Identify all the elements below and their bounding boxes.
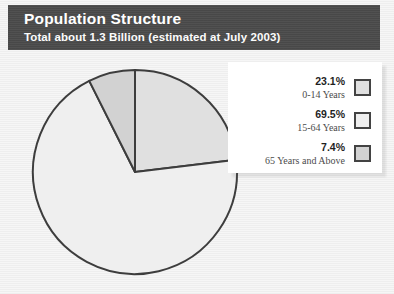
legend-item-percent: 7.4%	[265, 141, 345, 154]
pie-slice-group	[33, 70, 237, 274]
legend-item-label: 15-64 Years	[297, 121, 345, 134]
pie-chart-svg	[31, 68, 239, 276]
chart-header-bar: Population Structure Total about 1.3 Bil…	[8, 5, 380, 50]
legend-item-label: 0-14 Years	[302, 88, 345, 101]
legend-swatch-icon	[354, 112, 371, 129]
legend-item-label: 65 Years and Above	[265, 154, 345, 167]
legend-item-text: 69.5% 15-64 Years	[297, 108, 345, 134]
page-title: Population Structure	[24, 9, 380, 29]
legend-swatch-icon	[354, 79, 371, 96]
chart-legend: 23.1% 0-14 Years 69.5% 15-64 Years 7.4% …	[228, 62, 382, 173]
pie-chart	[31, 68, 239, 276]
legend-item-percent: 23.1%	[302, 75, 345, 88]
chart-canvas: Population Structure Total about 1.3 Bil…	[0, 0, 394, 294]
legend-item[interactable]: 69.5% 15-64 Years	[234, 104, 371, 137]
legend-swatch-icon	[354, 145, 371, 162]
legend-item-percent: 69.5%	[297, 108, 345, 121]
legend-item[interactable]: 23.1% 0-14 Years	[234, 71, 371, 104]
page-subtitle: Total about 1.3 Billion (estimated at Ju…	[24, 29, 380, 45]
pie-slice[interactable]	[135, 70, 236, 172]
legend-item-text: 7.4% 65 Years and Above	[265, 141, 345, 167]
legend-item[interactable]: 7.4% 65 Years and Above	[234, 137, 371, 170]
legend-item-text: 23.1% 0-14 Years	[302, 75, 345, 101]
